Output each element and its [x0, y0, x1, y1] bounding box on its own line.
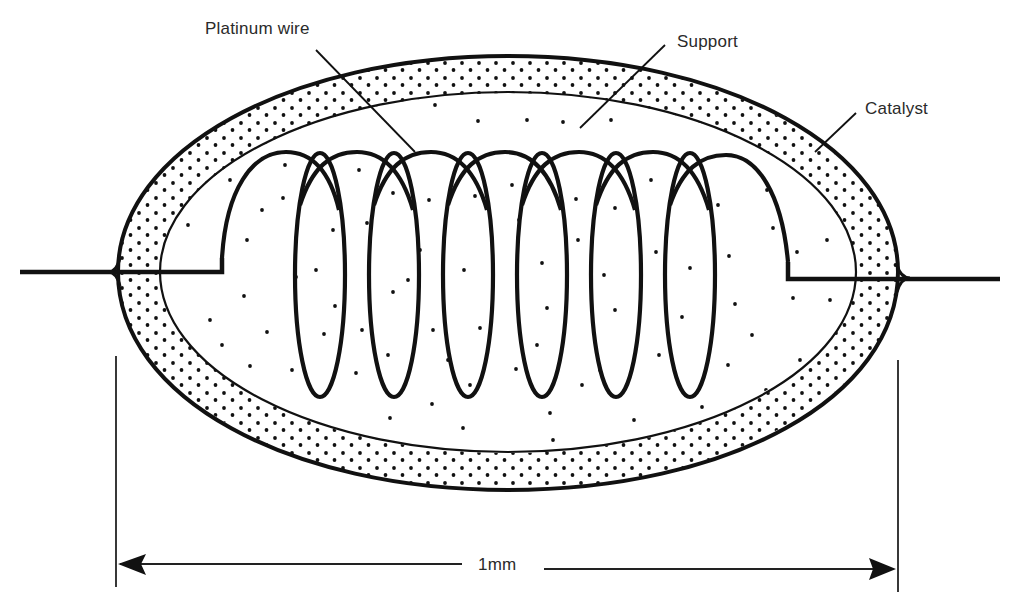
right-arrow-icon — [869, 558, 896, 580]
lead-wires — [20, 258, 1000, 292]
platinum-wire-label: Platinum wire — [205, 19, 310, 39]
dimension-label: 1mm — [472, 555, 522, 575]
platinum-wire-coil — [222, 152, 788, 397]
support-label: Support — [677, 32, 738, 52]
support-boundary — [160, 92, 856, 452]
catalyst-layer — [118, 56, 898, 490]
catalyst-label: Catalyst — [865, 99, 928, 119]
pellistor-diagram — [0, 0, 1024, 610]
catalyst-leader — [815, 113, 856, 152]
